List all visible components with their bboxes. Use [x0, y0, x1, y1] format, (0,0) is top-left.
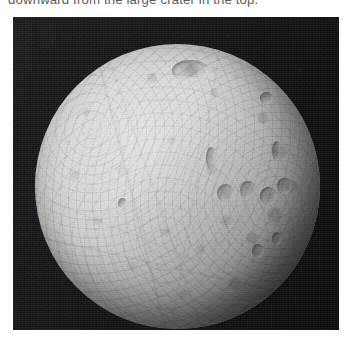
figure-caption-text: downward from the large crater in the to…	[8, 0, 258, 9]
moon-photograph	[13, 17, 339, 330]
moon-terminator-shading	[35, 44, 320, 329]
moon-disk	[35, 44, 320, 329]
caption-clip-region: downward from the large crater in the to…	[0, 0, 351, 9]
